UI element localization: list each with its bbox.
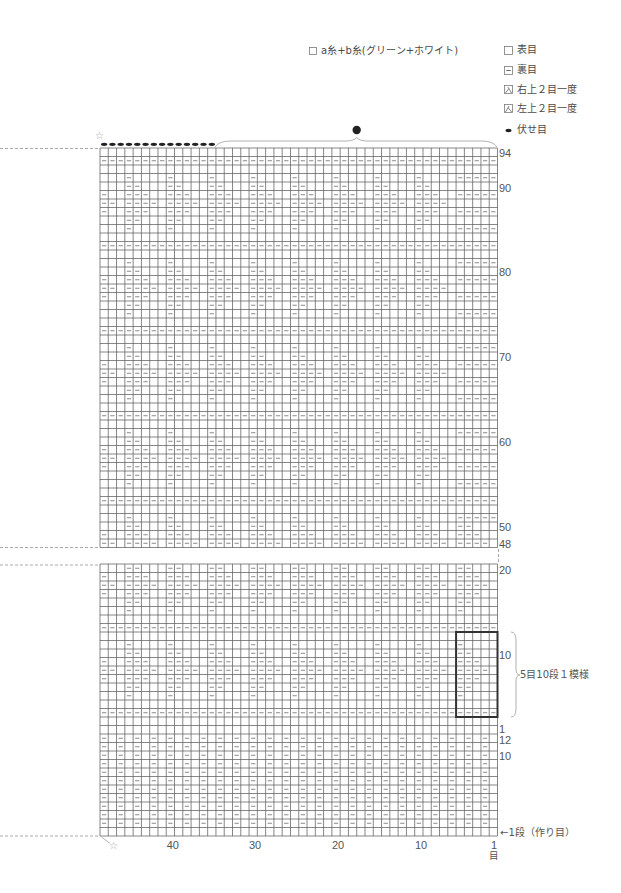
row-label: 12	[499, 735, 511, 746]
stitch-label: 30	[240, 840, 270, 851]
bind-off-remaining-dot-icon	[353, 126, 361, 134]
bind-off-mark-icon	[142, 143, 148, 146]
row-label: 70	[499, 352, 511, 363]
star-marker-top-icon: ☆	[95, 131, 104, 141]
repeat-label: 5目10段１模様	[520, 669, 589, 681]
chart-annotations	[0, 0, 621, 893]
knitting-chart-page: a糸+b糸(グリーン+ホワイト) 表目 裏目 右上２目一度	[0, 0, 621, 893]
pattern-repeat-box	[456, 632, 497, 717]
row-label: 20	[499, 565, 511, 576]
remaining-stitches-brace	[215, 138, 497, 148]
stitch-unit-label: 目	[479, 850, 509, 861]
bind-off-mark-icon	[101, 143, 107, 146]
bind-off-mark-icon	[126, 143, 132, 146]
bind-off-mark-icon	[200, 143, 206, 146]
bind-off-mark-icon	[159, 143, 165, 146]
bind-off-mark-icon	[109, 143, 115, 146]
bind-off-marks	[101, 143, 215, 146]
cast-on-row-label: ←1段（作り目）	[500, 827, 575, 839]
bind-off-mark-icon	[184, 143, 190, 146]
row-label: 48	[499, 539, 511, 550]
bind-off-mark-icon	[209, 143, 215, 146]
stitch-label: 10	[406, 840, 436, 851]
row-label: 90	[499, 183, 511, 194]
bind-off-mark-icon	[134, 143, 140, 146]
star-marker-bottom-icon: ☆	[109, 841, 118, 851]
bind-off-mark-icon	[167, 143, 173, 146]
row-label: 60	[499, 437, 511, 448]
bind-off-mark-icon	[192, 143, 198, 146]
row-label: 94	[499, 148, 511, 159]
stitch-label: 20	[323, 840, 353, 851]
bind-off-mark-icon	[118, 143, 124, 146]
repeat-brace	[511, 632, 520, 717]
row-label: 50	[499, 522, 511, 533]
bind-off-mark-icon	[175, 143, 181, 146]
row-label: 80	[499, 267, 511, 278]
row-label: 10	[499, 650, 511, 661]
stitch-label: 40	[158, 840, 188, 851]
row-label: 10	[499, 751, 511, 762]
bind-off-mark-icon	[151, 143, 157, 146]
